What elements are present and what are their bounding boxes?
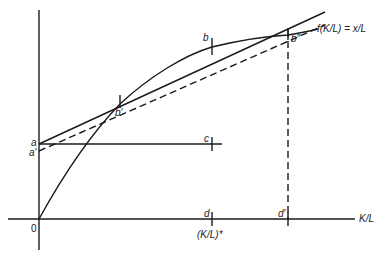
diagram-canvas [0,0,389,256]
x-axis-label: K/L [359,214,374,224]
label-d: d [204,209,210,219]
label-b-double-prime: b″ [291,34,300,44]
origin-label: 0 [31,224,37,234]
label-c: c [204,134,209,144]
label-b: b [203,33,209,43]
label-kl-star: (K/L)* [197,230,223,240]
label-a-prime: a′ [29,148,36,158]
label-d-prime: d′ [278,209,285,219]
curve-label: f(K/L) = x/L [317,24,366,34]
solid-line-from-a [39,12,325,144]
dashed-line-from-a-prime [39,25,325,151]
diagram-figure: a a′ b b′ b″ c d d′ 0 K/L (K/L)* f(K/L) … [0,0,389,256]
label-b-prime: b′ [115,108,122,118]
